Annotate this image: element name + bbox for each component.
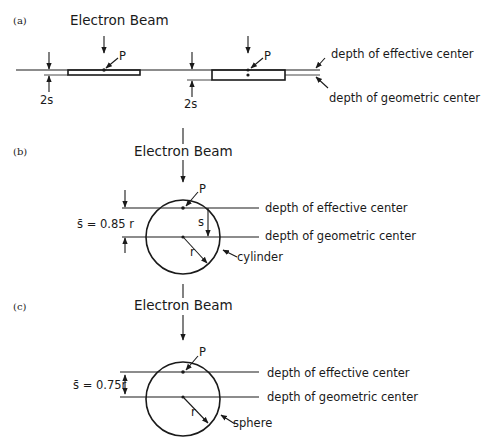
leader-arrow-icon — [316, 58, 325, 68]
p-pointer-arrow-icon — [251, 58, 263, 68]
point-p-dot — [102, 68, 106, 72]
panel-b-s-bar-label: s̄ = 0.85 r — [77, 217, 134, 231]
panel-c-p-label: P — [199, 345, 206, 359]
p-pointer-arrow-icon — [186, 192, 198, 206]
leader-arrow-icon — [316, 77, 328, 88]
panel-a: (a) Electron Beam P 2s P 2s depth of eff… — [13, 12, 480, 111]
panel-c: (c) Electron Beam P s̄ = 0.75r r sphere … — [13, 284, 418, 436]
electron-beam-effective-center-diagram: (a) Electron Beam P 2s P 2s depth of eff… — [0, 0, 481, 442]
p-pointer-arrow-icon — [106, 58, 118, 68]
panel-c-geometric-center-label: depth of geometric center — [267, 390, 418, 404]
point-effective-dot — [246, 68, 249, 71]
panel-a-label: (a) — [13, 15, 27, 26]
panel-c-label: (c) — [13, 301, 27, 312]
panel-c-beam-label: Electron Beam — [134, 297, 233, 313]
point-geometric-dot — [246, 73, 249, 76]
panel-a-p-label-2: P — [264, 49, 271, 63]
radius-arrow-icon — [184, 398, 208, 423]
panel-c-r-label: r — [191, 405, 196, 419]
panel-a-2s-label-right: 2s — [184, 97, 197, 111]
radius-arrow-icon — [184, 238, 207, 263]
panel-a-effective-center-label: depth of effective center — [331, 47, 474, 61]
point-p-dot — [181, 370, 185, 374]
panel-b-p-label: P — [199, 182, 206, 196]
panel-b-s-label: s — [198, 215, 204, 229]
panel-b-shape-label: cylinder — [237, 250, 283, 264]
panel-a-p-label-1: P — [119, 49, 126, 63]
panel-c-effective-center-label: depth of effective center — [267, 366, 410, 380]
panel-b-label: (b) — [13, 146, 27, 157]
panel-b-r-label: r — [190, 245, 195, 259]
leader-arrow-icon — [223, 250, 237, 257]
panel-a-2s-label-left: 2s — [40, 93, 53, 107]
panel-a-geometric-center-label: depth of geometric center — [329, 91, 480, 105]
panel-b: (b) Electron Beam P s r s̄ = 0.85 r cyli… — [13, 128, 416, 274]
panel-b-effective-center-label: depth of effective center — [265, 201, 408, 215]
panel-b-geometric-center-label: depth of geometric center — [265, 229, 416, 243]
panel-c-s-bar-label: s̄ = 0.75r — [73, 378, 127, 392]
panel-a-beam-label: Electron Beam — [70, 12, 169, 28]
panel-c-shape-label: sphere — [233, 416, 272, 430]
point-p-dot — [181, 206, 185, 210]
panel-b-beam-label: Electron Beam — [134, 143, 233, 159]
